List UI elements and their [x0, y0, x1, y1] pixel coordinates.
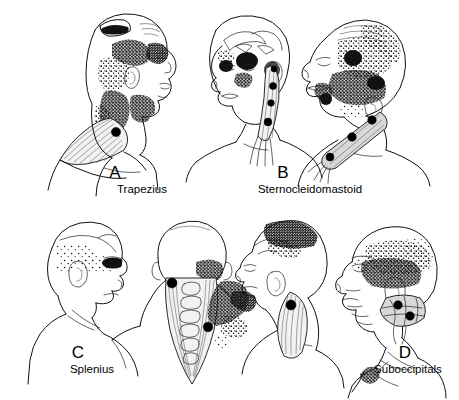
trigger-point-plate: A Trapezius	[0, 0, 459, 400]
figure-root: A Trapezius	[0, 0, 459, 400]
panel-d-letter: D	[399, 343, 411, 362]
panel-b-letter: B	[277, 163, 288, 182]
panel-a-name: Trapezius	[117, 183, 167, 195]
panel-c-right-trigger-point	[286, 300, 296, 310]
panel-b-name: Sternocleidomastoid	[258, 183, 362, 195]
trigger-point-dot	[111, 127, 120, 136]
panel-c-letter: C	[72, 343, 84, 362]
panel-d-name: Suboccipitals	[374, 363, 442, 375]
panel-c-name: Splenius	[70, 363, 114, 375]
panel-a-letter: A	[109, 163, 121, 182]
